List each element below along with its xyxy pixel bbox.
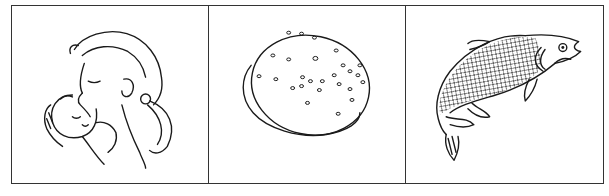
panel-bun: Sesame bun (208, 6, 405, 183)
fish-icon (406, 6, 603, 183)
picture-strip: Mother kissing baby (11, 5, 604, 184)
bun-icon (209, 6, 405, 183)
panel-fish: Fish (405, 6, 603, 183)
mother-baby-icon (12, 6, 208, 183)
panel-mother-baby: Mother kissing baby (12, 6, 208, 183)
